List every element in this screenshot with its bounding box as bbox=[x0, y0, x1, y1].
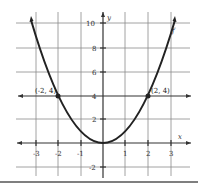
y-axis-label: y bbox=[106, 14, 112, 22]
svg-text:-1: -1 bbox=[77, 150, 84, 158]
curve-label: f bbox=[171, 27, 176, 35]
svg-text:-2: -2 bbox=[89, 164, 96, 172]
svg-text:8: 8 bbox=[92, 45, 96, 53]
y-axis bbox=[101, 12, 105, 178]
point-right bbox=[146, 94, 151, 99]
svg-text:-2: -2 bbox=[55, 150, 62, 158]
point-right-label: (2, 4) bbox=[151, 87, 170, 95]
svg-text:6: 6 bbox=[92, 69, 97, 77]
x-axis-label: x bbox=[178, 133, 182, 141]
point-left-label: (-2, 4) bbox=[35, 87, 56, 95]
svg-text:2: 2 bbox=[146, 150, 150, 158]
svg-text:2: 2 bbox=[92, 116, 96, 124]
svg-text:1: 1 bbox=[123, 150, 127, 158]
parabola-chart: (-2, 4) (2, 4) f y x 10 8 6 4 2 -2 -3 -2… bbox=[0, 0, 198, 190]
point-left bbox=[56, 94, 61, 99]
svg-text:10: 10 bbox=[86, 20, 95, 28]
svg-text:3: 3 bbox=[169, 150, 173, 158]
svg-text:4: 4 bbox=[92, 93, 97, 101]
svg-text:-3: -3 bbox=[33, 150, 40, 158]
